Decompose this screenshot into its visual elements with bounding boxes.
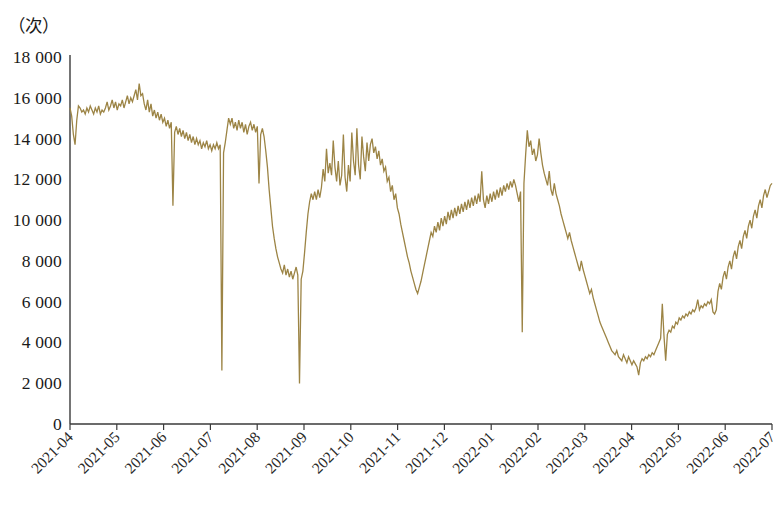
y-axis-tick-label: 4 000 bbox=[22, 332, 62, 352]
y-axis-tick-label: 10 000 bbox=[13, 210, 62, 230]
y-axis-unit-label: （次） bbox=[8, 16, 59, 36]
x-axis-tick-label: 2022-04 bbox=[589, 428, 638, 477]
x-axis-tick-label: 2022-03 bbox=[542, 428, 591, 477]
y-axis-tick-label: 6 000 bbox=[22, 292, 62, 312]
y-axis-tick-label: 16 000 bbox=[13, 88, 62, 108]
x-axis-tick-label: 2022-02 bbox=[496, 428, 545, 477]
x-axis-tick-label: 2022-07 bbox=[730, 428, 779, 477]
x-axis-tick-label: 2021-07 bbox=[168, 428, 217, 477]
y-axis-tick-label: 18 000 bbox=[13, 47, 62, 67]
chart-container: （次）02 0004 0006 0008 00010 00012 00014 0… bbox=[0, 0, 784, 521]
y-axis-tick-label: 8 000 bbox=[22, 251, 62, 271]
x-axis-tick-label: 2021-08 bbox=[215, 428, 264, 477]
x-axis-tick-label: 2021-11 bbox=[356, 428, 404, 476]
x-axis-tick-label: 2021-12 bbox=[402, 428, 451, 477]
y-axis-tick-label: 2 000 bbox=[22, 373, 62, 393]
x-axis-tick-label: 2021-06 bbox=[121, 428, 170, 477]
x-axis-tick-label: 2022-06 bbox=[683, 428, 732, 477]
x-axis-tick-label: 2021-10 bbox=[308, 428, 357, 477]
x-axis-tick-label: 2021-05 bbox=[74, 428, 123, 477]
x-axis-tick-label: 2022-05 bbox=[636, 428, 685, 477]
y-axis-tick-label: 12 000 bbox=[13, 169, 62, 189]
x-axis-tick-label: 2021-09 bbox=[262, 428, 311, 477]
line-chart: （次）02 0004 0006 0008 00010 00012 00014 0… bbox=[0, 0, 784, 521]
x-axis-tick-label: 2021-04 bbox=[28, 428, 77, 477]
x-axis-tick-label: 2022-01 bbox=[449, 428, 498, 477]
data-series-line bbox=[70, 84, 772, 384]
y-axis-tick-label: 14 000 bbox=[13, 129, 62, 149]
